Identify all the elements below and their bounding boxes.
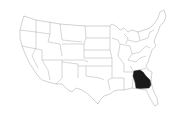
us-map: [0, 0, 179, 121]
